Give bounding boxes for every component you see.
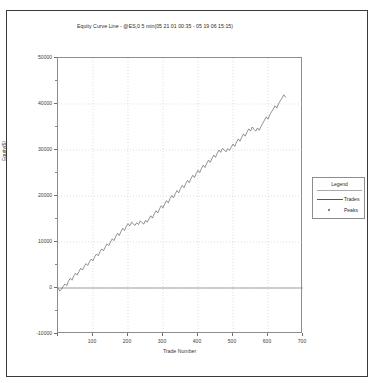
legend-line-marker [317, 194, 343, 204]
equity-line [58, 95, 286, 291]
x-tick-mark [162, 333, 163, 336]
x-tick-label: 300 [147, 339, 177, 344]
gridlines [58, 58, 303, 334]
y-tick-label: 40000 [12, 101, 52, 106]
x-tick-label: 600 [252, 339, 282, 344]
y-minor-tick [55, 310, 57, 311]
legend-label-trades: Trades [344, 196, 359, 202]
chart-title: Equity Curve Line - @ES,0 5 min(05 21 01… [7, 23, 303, 30]
legend-entry-peaks: Peaks [313, 205, 366, 215]
x-tick-mark [127, 333, 128, 336]
x-tick-mark [92, 333, 93, 336]
y-tick-label: 10000 [12, 239, 52, 244]
y-tick-label: -10000 [12, 331, 52, 336]
y-minor-tick [55, 80, 57, 81]
plot-area [57, 57, 302, 333]
x-tick-label: 400 [182, 339, 212, 344]
x-tick-label: 100 [77, 339, 107, 344]
legend-entry-trades: Trades [313, 194, 366, 204]
y-tick-mark [54, 241, 57, 242]
legend-divider [317, 190, 362, 191]
x-axis-title: Trade Number [57, 348, 302, 354]
y-tick-mark [54, 103, 57, 104]
x-tick-label: 500 [217, 339, 247, 344]
y-tick-mark [54, 149, 57, 150]
x-tick-mark [232, 333, 233, 336]
x-tick-mark [197, 333, 198, 336]
y-tick-mark [54, 195, 57, 196]
y-minor-tick [55, 218, 57, 219]
y-minor-tick [55, 126, 57, 127]
legend-title: Legend [313, 181, 366, 187]
x-tick-mark [267, 333, 268, 336]
y-minor-tick [55, 172, 57, 173]
y-tick-mark [54, 57, 57, 58]
legend-label-peaks: Peaks [344, 207, 358, 213]
y-minor-tick [55, 264, 57, 265]
x-tick-mark [302, 333, 303, 336]
x-tick-mark [57, 333, 58, 336]
legend-dot-marker [317, 205, 343, 215]
y-tick-mark [54, 287, 57, 288]
equity-curve-chart: Equity Curve Line - @ES,0 5 min(05 21 01… [7, 11, 303, 356]
y-tick-label: 30000 [12, 147, 52, 152]
plot-svg [58, 58, 303, 334]
y-axis-title: Equity($) [1, 141, 7, 161]
legend: Legend Trades Peaks [312, 177, 365, 219]
x-tick-label: 200 [112, 339, 142, 344]
y-tick-label: 20000 [12, 193, 52, 198]
y-tick-label: 50000 [12, 55, 52, 60]
x-tick-label: 700 [287, 339, 317, 344]
screenshot-root: Equity Curve Line - @ES,0 5 min(05 21 01… [0, 0, 374, 383]
y-tick-label: 0 [12, 285, 52, 290]
